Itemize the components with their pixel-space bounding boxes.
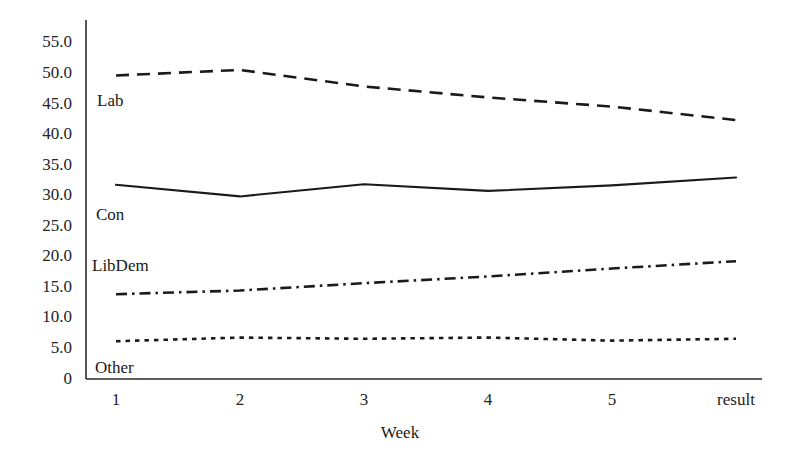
y-tick-label: 30.0 xyxy=(0,186,72,203)
series-lines xyxy=(116,70,736,341)
x-tick-label: 2 xyxy=(180,391,300,408)
x-tick-label: 3 xyxy=(304,391,424,408)
y-tick-label: 5.0 xyxy=(0,339,72,356)
y-tick-label: 40.0 xyxy=(0,125,72,142)
y-tick-label: 45.0 xyxy=(0,95,72,112)
series-line-lab xyxy=(116,70,736,120)
y-tick-label: 55.0 xyxy=(0,33,72,50)
y-tick-label: 20.0 xyxy=(0,247,72,264)
y-tick-label: 35.0 xyxy=(0,156,72,173)
y-tick-label: 10.0 xyxy=(0,308,72,325)
axis-lines xyxy=(86,20,762,379)
series-label-libdem: LibDem xyxy=(92,257,149,274)
y-tick-label: 50.0 xyxy=(0,64,72,81)
line-chart: 55.050.045.040.035.030.025.020.015.010.0… xyxy=(0,0,800,466)
y-tick-label: 15.0 xyxy=(0,278,72,295)
series-label-con: Con xyxy=(96,206,124,223)
series-line-other xyxy=(116,338,736,342)
x-tick-label: result xyxy=(676,391,796,408)
series-line-libdem xyxy=(116,261,736,294)
series-label-other: Other xyxy=(95,359,134,376)
x-tick-label: 4 xyxy=(428,391,548,408)
y-tick-label: 0 xyxy=(0,370,72,387)
x-axis-title: Week xyxy=(0,424,800,441)
x-tick-label: 1 xyxy=(56,391,176,408)
y-tick-label: 25.0 xyxy=(0,217,72,234)
series-line-con xyxy=(116,177,736,196)
x-tick-label: 5 xyxy=(552,391,672,408)
series-label-lab: Lab xyxy=(97,92,123,109)
